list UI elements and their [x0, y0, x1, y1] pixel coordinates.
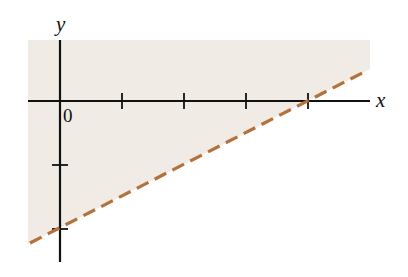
inequality-graph: y x 0	[0, 0, 408, 277]
y-axis-label: y	[54, 12, 66, 36]
x-axis-label: x	[375, 88, 386, 112]
shaded-region	[28, 40, 370, 244]
origin-label: 0	[63, 105, 73, 126]
